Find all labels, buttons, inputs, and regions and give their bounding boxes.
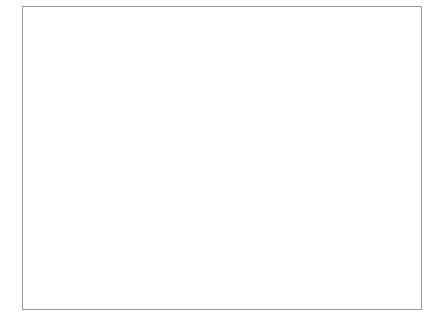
chart-figure	[0, 0, 438, 326]
plot-area	[60, 34, 415, 280]
y-axis-tick-labels	[22, 34, 57, 280]
chart-canvas	[60, 34, 415, 280]
